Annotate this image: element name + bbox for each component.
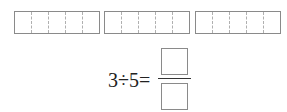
fraction-line xyxy=(158,78,191,79)
bar-cell xyxy=(213,12,230,33)
fraction-bar-3 xyxy=(195,11,281,34)
bar-cell xyxy=(173,12,189,33)
fraction-bar-1 xyxy=(14,11,100,34)
bar-cell xyxy=(66,12,83,33)
fraction-bar-2 xyxy=(104,11,190,34)
bar-cell xyxy=(49,12,66,33)
bar-cell xyxy=(264,12,280,33)
bar-cell xyxy=(122,12,139,33)
numerator-input-box[interactable] xyxy=(161,48,188,75)
bar-cell xyxy=(156,12,173,33)
bar-cell xyxy=(83,12,99,33)
bar-cell xyxy=(32,12,49,33)
bar-cell xyxy=(15,12,32,33)
bar-cell xyxy=(196,12,213,33)
denominator-input-box[interactable] xyxy=(161,83,188,110)
bar-cell xyxy=(105,12,122,33)
bar-cell xyxy=(247,12,264,33)
bar-cell xyxy=(139,12,156,33)
bar-cell xyxy=(230,12,247,33)
division-equation: 3÷5= xyxy=(108,68,150,92)
